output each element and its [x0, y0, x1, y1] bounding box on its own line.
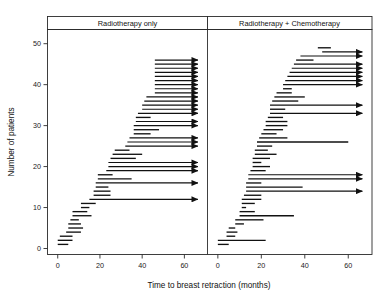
x-tick-label: 0 [56, 261, 60, 270]
y-tick-label: 0 [37, 244, 41, 253]
y-tick-label: 40 [33, 80, 41, 89]
y-tick-label: 10 [33, 203, 41, 212]
panel-strips: Radiotherapy only Radiotherapy + Chemoth… [48, 17, 373, 30]
y-tick-label: 30 [33, 121, 41, 130]
series-radiotherapy-plus-chemotherapy [218, 48, 362, 245]
plot-canvas: Radiotherapy only Radiotherapy + Chemoth… [0, 0, 388, 301]
strip-label-left: Radiotherapy only [98, 19, 158, 28]
y-axis-title: Number of patients [7, 107, 16, 176]
y-axis: 01020304050 [33, 39, 48, 253]
x-tick-label: 40 [138, 261, 146, 270]
x-axis-title: Time to breast retraction (months) [147, 281, 270, 290]
survival-interval-plot: Radiotherapy only Radiotherapy + Chemoth… [0, 0, 388, 301]
x-tick-label: 60 [344, 261, 352, 270]
series-radiotherapy-only [58, 60, 198, 244]
x-tick-label: 20 [257, 261, 265, 270]
x-tick-label: 60 [180, 261, 188, 270]
x-tick-label: 40 [301, 261, 309, 270]
x-tick-label: 0 [216, 261, 220, 270]
y-tick-label: 50 [33, 39, 41, 48]
y-tick-label: 20 [33, 162, 41, 171]
strip-label-right: Radiotherapy + Chemotherapy [239, 19, 340, 28]
x-axis: 02040600204060 [56, 255, 353, 271]
x-tick-label: 20 [96, 261, 104, 270]
